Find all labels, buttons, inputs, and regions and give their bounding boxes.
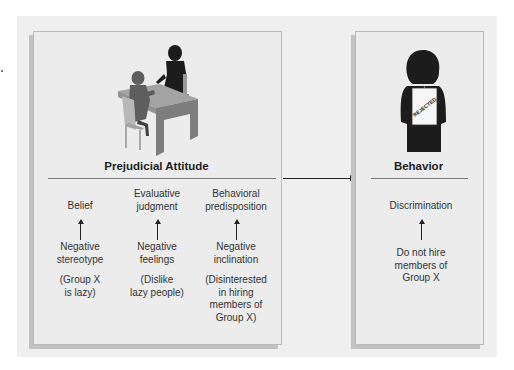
negative-stereotype: Negative stereotype: [40, 241, 120, 266]
up-arrow-icon: [421, 223, 422, 240]
negative-inclination: Negative inclination: [193, 241, 279, 266]
negative-feelings: Negative feelings: [117, 241, 197, 266]
evaluative-judgment-heading: Evaluative judgment: [117, 188, 197, 213]
behavioral-predisposition-heading: Behavioral predisposition: [193, 188, 279, 213]
up-arrow-icon: [157, 223, 158, 240]
behavior-title: Behavior: [355, 160, 482, 172]
stereotype-example: (Group X is lazy): [40, 274, 120, 299]
up-arrow-icon: [236, 223, 237, 240]
up-arrow-icon: [80, 223, 81, 240]
interview-desk-icon: [112, 44, 202, 159]
left-panel-divider: [48, 178, 276, 179]
feelings-example: (Dislike lazy people): [117, 274, 197, 299]
scan-artifact: [1, 70, 3, 72]
right-arrow-icon: [283, 178, 351, 179]
inclination-example: (Disinterested in hiring members of Grou…: [193, 274, 279, 324]
do-not-hire: Do not hire members of Group X: [367, 247, 475, 285]
belief-heading: Belief: [40, 200, 120, 213]
rejected-person-icon: REJECTED: [399, 50, 447, 155]
discrimination-heading: Discrimination: [367, 200, 475, 213]
right-panel-divider: [371, 178, 468, 179]
prejudicial-attitude-title: Prejudicial Attitude: [33, 160, 280, 172]
